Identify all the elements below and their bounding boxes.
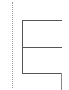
connector-branch-2 bbox=[22, 47, 62, 48]
dotted-guide-line bbox=[12, 2, 13, 88]
connector-branch-1 bbox=[22, 20, 62, 21]
connector-tail bbox=[61, 73, 62, 90]
connector-branch-3 bbox=[22, 73, 62, 74]
